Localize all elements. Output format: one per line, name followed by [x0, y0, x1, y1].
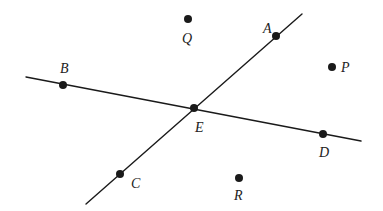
point-e [190, 104, 198, 112]
point-r [235, 174, 243, 182]
label-q: Q [182, 31, 192, 46]
point-d [319, 130, 327, 138]
label-c: C [131, 176, 141, 191]
label-p: P [340, 60, 350, 75]
labels-layer: ABCDEPQR [60, 21, 350, 203]
label-a: A [262, 21, 272, 36]
label-e: E [194, 120, 204, 135]
label-b: B [60, 61, 69, 76]
label-r: R [233, 188, 243, 203]
label-d: D [318, 145, 329, 160]
point-c [116, 170, 124, 178]
point-a [272, 32, 280, 40]
point-q [184, 15, 192, 23]
geometry-diagram: ABCDEPQR [0, 0, 383, 211]
point-b [59, 81, 67, 89]
point-p [328, 63, 336, 71]
points-layer [59, 15, 336, 182]
